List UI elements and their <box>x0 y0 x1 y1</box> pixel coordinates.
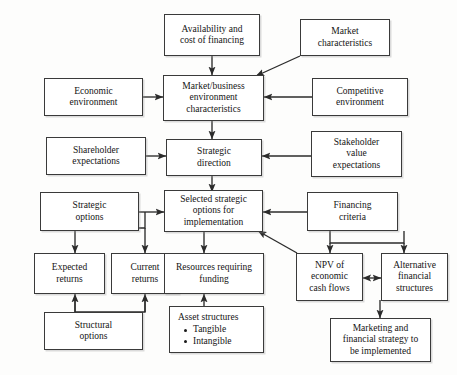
node-label: Asset structures <box>178 312 238 323</box>
node-label: Economic environment <box>66 86 120 108</box>
node-stakeholder-value-expectations: Stakeholder value expectations <box>311 131 402 177</box>
node-label: Availability and cost of financing <box>177 24 247 46</box>
node-label: Shareholder expectations <box>69 145 122 167</box>
node-label: Alternative financial structures <box>390 260 439 294</box>
node-label: Expected returns <box>49 262 90 284</box>
node-label: Marketing and financial strategy to be i… <box>340 323 421 357</box>
list-item: Intangible <box>183 336 232 348</box>
node-label: Structural options <box>72 320 115 342</box>
node-competitive-environment: Competitive environment <box>312 78 408 116</box>
node-alternative-financial-structures: Alternative financial structures <box>381 253 448 301</box>
node-label: Resources requiring funding <box>173 262 255 284</box>
node-label: Selected strategic options for implement… <box>177 194 250 228</box>
node-label: Market characteristics <box>315 26 375 48</box>
node-availability-cost-of-financing: Availability and cost of financing <box>164 14 260 56</box>
flowchart-diagram: Availability and cost of financing Marke… <box>0 0 457 375</box>
node-market-characteristics: Market characteristics <box>300 19 390 56</box>
node-expected-returns: Expected returns <box>34 253 105 294</box>
node-market-business-environment-characteristics: Market/business environment characterist… <box>163 75 264 121</box>
connector-structural-split <box>75 300 145 312</box>
connector-financingcriteria-split <box>330 231 404 243</box>
node-asset-structures: Asset structures Tangible Intangible <box>169 306 264 353</box>
node-strategic-options: Strategic options <box>40 192 139 231</box>
node-npv-of-economic-cash-flows: NPV of economic cash flows <box>296 253 363 301</box>
list-item: Tangible <box>183 324 232 336</box>
asset-structures-bullet-list: Tangible Intangible <box>178 324 232 347</box>
node-label: Financing criteria <box>331 200 375 222</box>
node-label: Strategic direction <box>194 146 234 168</box>
node-resources-requiring-funding: Resources requiring funding <box>164 253 264 294</box>
node-label: Stakeholder value expectations <box>330 137 383 171</box>
node-label: Current returns <box>127 262 162 284</box>
node-structural-options: Structural options <box>44 312 143 350</box>
connector-marketchar-to-marketenv <box>256 56 300 76</box>
node-selected-strategic-options-for-implementation: Selected strategic options for implement… <box>164 190 263 232</box>
connector-npv-to-selected <box>258 231 297 253</box>
node-shareholder-expectations: Shareholder expectations <box>46 137 146 175</box>
node-label: Strategic options <box>70 200 110 222</box>
node-label: NPV of economic cash flows <box>306 260 352 294</box>
node-economic-environment: Economic environment <box>44 78 143 116</box>
node-financing-criteria: Financing criteria <box>307 192 398 231</box>
node-marketing-and-financial-strategy: Marketing and financial strategy to be i… <box>330 318 431 362</box>
node-strategic-direction: Strategic direction <box>166 139 262 176</box>
node-label: Competitive environment <box>333 86 387 108</box>
node-label: Market/business environment characterist… <box>179 81 247 115</box>
